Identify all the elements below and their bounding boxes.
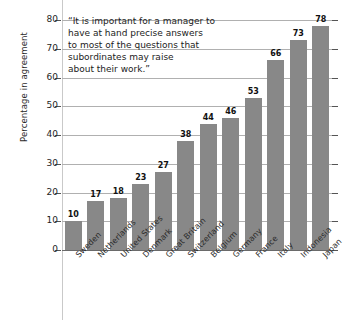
bar <box>245 98 262 250</box>
quote-line: about their work.” <box>68 63 244 75</box>
quote-line: “It is important for a manager to <box>68 15 244 27</box>
bar <box>65 221 82 250</box>
y-tick-label: 0 <box>32 244 58 254</box>
y-tick-label: 10 <box>32 215 58 225</box>
bar-value-label: 78 <box>306 15 335 24</box>
y-tick-label: 30 <box>32 158 58 168</box>
bar <box>267 60 284 250</box>
y-tick-mark-right <box>332 78 338 79</box>
bar-chart-figure: Percentage in agreement 1017182327384446… <box>0 0 352 328</box>
y-tick-mark-right <box>332 49 338 50</box>
y-tick-mark-right <box>332 135 338 136</box>
quote-line: to most of the questions that <box>68 39 244 51</box>
y-tick-label: 20 <box>32 187 58 197</box>
y-tick-mark-right <box>332 193 338 194</box>
y-tick-label: 40 <box>32 129 58 139</box>
y-tick-label: 70 <box>32 43 58 53</box>
bar-value-label: 27 <box>149 161 178 170</box>
y-tick-mark-right <box>332 221 338 222</box>
bar-value-label: 18 <box>104 187 133 196</box>
bar-value-label: 10 <box>59 210 88 219</box>
bar-value-label: 46 <box>216 107 245 116</box>
y-tick-label: 50 <box>32 100 58 110</box>
quote-annotation: “It is important for a manager tohave at… <box>68 15 244 75</box>
bar-value-label: 23 <box>126 173 155 182</box>
y-tick-mark-right <box>332 106 338 107</box>
bar-value-label: 73 <box>284 29 313 38</box>
y-tick-label: 80 <box>32 14 58 24</box>
y-tick-label: 60 <box>32 72 58 82</box>
y-axis-title: Percentage in agreement <box>19 7 29 167</box>
y-tick-mark-right <box>332 164 338 165</box>
quote-line: subordinates may raise <box>68 51 244 63</box>
quote-line: have at hand precise answers <box>68 27 244 39</box>
bar <box>290 40 307 250</box>
bar <box>312 26 329 250</box>
bar-value-label: 38 <box>171 130 200 139</box>
bar-value-label: 53 <box>239 87 268 96</box>
bar-value-label: 66 <box>261 49 290 58</box>
